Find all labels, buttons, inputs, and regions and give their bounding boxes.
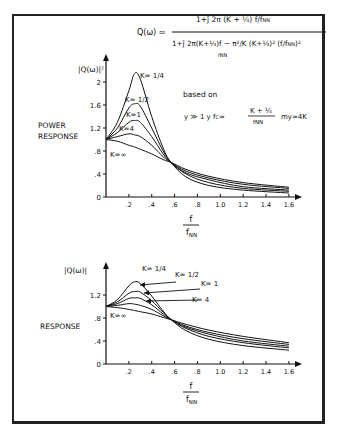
curve-K4 xyxy=(106,304,289,345)
label-k-1: K=1 xyxy=(126,111,141,119)
curve-K4 xyxy=(106,134,289,189)
x-tick-label: .8 xyxy=(194,201,200,209)
y-axis-label: |Q(ω)|² xyxy=(78,65,104,74)
label-k-half: K= 1/2 xyxy=(175,271,199,279)
svg-text:fNN: fNN xyxy=(218,52,228,58)
figure-canvas: Q(ω) ≈ 1+ĵ 2π (K + ¼) f/fNN 1+ĵ 2π(K+¼)f… xyxy=(0,0,339,434)
x-tick-label: .8 xyxy=(194,368,200,376)
curve-K xyxy=(106,140,289,188)
x-tick-label: 1.4 xyxy=(261,368,271,376)
note-line2: y ≫ 1 y fC≈ xyxy=(184,113,225,121)
y-tick-label: 1.2 xyxy=(90,125,101,133)
y-tick-label: 1.6 xyxy=(90,102,102,110)
x-axis-label-denominator: fNN xyxy=(186,395,197,405)
label-k-1: K= 1 xyxy=(201,280,218,288)
formula-lhs: Q(ω) ≈ xyxy=(137,28,165,37)
label-k-quarter: K= 1/4 xyxy=(142,265,166,273)
label-k-half: K= 1/2 xyxy=(125,96,149,104)
note-line1: based on xyxy=(183,90,218,99)
y-tick-label: 0 xyxy=(97,361,101,369)
formula: Q(ω) ≈ 1+ĵ 2π (K + ¼) f/fNN 1+ĵ 2π(K+¼)f… xyxy=(137,15,326,58)
label-k-inf: K=∞ xyxy=(110,151,126,159)
x-tick-label: 1.2 xyxy=(238,201,248,209)
power-response-chart: 0.4.81.21.62.2.4.6.81.01.21.41.6ffNN|Q(ω… xyxy=(38,54,302,238)
y-tick-label: .8 xyxy=(94,315,101,323)
y-axis-label: |Q(ω)| xyxy=(64,266,87,275)
x-axis-label-numerator: f xyxy=(190,382,193,391)
y-tick-label: 0 xyxy=(97,194,101,202)
pointer-arrow xyxy=(146,300,198,301)
assumption-note: based on y ≫ 1 y fC≈ K + ¼ fNN my≈4K xyxy=(183,90,307,125)
y-tick-label: .4 xyxy=(94,338,101,346)
x-axis-arrow-icon xyxy=(295,361,302,367)
x-tick-label: 1.4 xyxy=(261,201,271,209)
x-tick-label: 1.0 xyxy=(215,368,225,376)
x-tick-label: .6 xyxy=(171,368,177,376)
y-tick-label: .4 xyxy=(94,171,101,179)
x-tick-label: .4 xyxy=(149,368,155,376)
x-tick-label: .2 xyxy=(126,201,132,209)
label-k-inf: K=∞ xyxy=(110,312,126,320)
label-k-quarter: K= 1/4 xyxy=(140,72,164,80)
svg-text:fNN: fNN xyxy=(253,119,263,125)
x-tick-label: 1.0 xyxy=(215,201,225,209)
x-axis-label-denominator: fNN xyxy=(186,228,197,238)
x-axis-arrow-icon xyxy=(295,194,302,200)
x-tick-label: 1.6 xyxy=(284,368,294,376)
x-tick-label: 1.2 xyxy=(238,368,248,376)
svg-text:K + ¼: K + ¼ xyxy=(250,107,272,115)
x-tick-label: 1.6 xyxy=(284,201,294,209)
label-k-4: K=4 xyxy=(119,125,134,133)
x-axis-label-numerator: f xyxy=(190,215,193,224)
chart-title-line2: RESPONSE xyxy=(38,132,79,141)
y-tick-label: 1.2 xyxy=(90,292,101,300)
x-tick-label: .2 xyxy=(126,368,132,376)
svg-text:my≈4K: my≈4K xyxy=(281,113,307,121)
x-tick-label: .4 xyxy=(149,201,155,209)
curve-K xyxy=(106,307,289,343)
y-axis-arrow-icon xyxy=(103,262,109,269)
arrowhead-icon xyxy=(144,290,149,295)
y-tick-label: .8 xyxy=(94,148,101,156)
response-chart: 0.4.81.2.2.4.6.81.01.21.41.6ffNN|Q(ω)|RE… xyxy=(40,262,302,405)
pointer-arrow xyxy=(144,289,200,293)
chart-title: RESPONSE xyxy=(40,322,81,331)
chart-title-line1: POWER xyxy=(38,121,66,130)
formula-denominator: 1+ĵ 2π(K+¼)f − π²/K (K+¼)² (f/fNN)² xyxy=(172,39,301,48)
x-tick-label: .6 xyxy=(171,201,177,209)
y-tick-label: 2 xyxy=(97,79,101,87)
pointer-arrow xyxy=(140,282,176,285)
y-axis-arrow-icon xyxy=(103,54,109,61)
formula-numerator: 1+ĵ 2π (K + ¼) f/fNN xyxy=(196,15,270,24)
